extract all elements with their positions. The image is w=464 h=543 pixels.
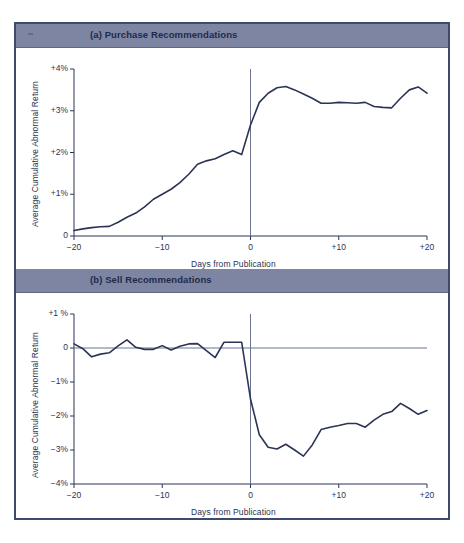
x-tick-label: +10 — [319, 242, 359, 252]
y-tick-label: −4% — [28, 478, 68, 488]
header-dash-icon — [28, 33, 33, 35]
plot-area-purchase: Average Cumulative Abnormal Return Days … — [16, 47, 448, 269]
y-axis-title-sell: Average Cumulative Abnormal Return — [30, 332, 40, 478]
x-tick-label: 0 — [231, 242, 271, 252]
y-tick-label: −2% — [28, 410, 68, 420]
y-tick-label: 0 — [28, 230, 68, 240]
panel-title-sell: (b) Sell Recommendations — [90, 274, 212, 285]
x-tick-label: +20 — [407, 242, 447, 252]
x-tick-label: +20 — [407, 490, 447, 500]
panel-header-sell: (b) Sell Recommendations — [16, 269, 448, 293]
x-tick-label: −10 — [142, 490, 182, 500]
x-tick-label: −20 — [54, 490, 94, 500]
x-tick-label: −20 — [54, 242, 94, 252]
y-tick-label: +2% — [28, 147, 68, 157]
y-tick-label: −1% — [28, 376, 68, 386]
panel-title-purchase: (a) Purchase Recommendations — [90, 29, 237, 40]
y-tick-label: +1% — [28, 188, 68, 198]
x-tick-label: +10 — [319, 490, 359, 500]
chart-svg-purchase — [16, 47, 448, 269]
y-tick-label: 0 — [28, 342, 68, 352]
x-tick-label: 0 — [231, 490, 271, 500]
y-tick-label: −3% — [28, 444, 68, 454]
plot-area-sell: Average Cumulative Abnormal Return Days … — [16, 292, 448, 518]
panel-sell-recommendations: (b) Sell Recommendations Average Cumulat… — [16, 269, 448, 518]
x-tick-label: −10 — [142, 242, 182, 252]
panel-purchase-recommendations: (a) Purchase Recommendations Average Cum… — [16, 24, 448, 269]
y-tick-label: +3% — [28, 105, 68, 115]
y-tick-label: +1 % — [28, 308, 68, 318]
figure-frame: (a) Purchase Recommendations Average Cum… — [14, 22, 450, 520]
x-axis-title-sell: Days from Publication — [191, 507, 276, 517]
chart-svg-sell — [16, 292, 448, 518]
panel-header-purchase: (a) Purchase Recommendations — [16, 24, 448, 48]
x-axis-title-purchase: Days from Publication — [191, 259, 276, 269]
y-tick-label: +4% — [28, 63, 68, 73]
